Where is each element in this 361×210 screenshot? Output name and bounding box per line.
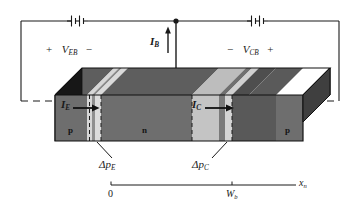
ic-subscript: C	[196, 104, 201, 112]
collector-region-letter: p	[285, 126, 290, 135]
base-current-arrow	[165, 27, 171, 54]
delta-pc-symbol: Δp	[192, 158, 204, 170]
veb-subscript: EB	[68, 49, 77, 57]
figure-canvas: + VEB − − VCB + IB IE IC p n p ΔpE ΔpC 0…	[0, 0, 361, 210]
delta-p-emitter-label: ΔpE	[99, 159, 115, 170]
vcb-plus-sign: +	[267, 43, 273, 55]
collector-current-label: IC	[192, 99, 201, 110]
delta-pe-symbol: Δp	[99, 158, 111, 170]
ib-subscript: B	[154, 41, 159, 49]
base-node-top-dot	[173, 18, 178, 23]
emitter-base-voltage-label: + VEB −	[46, 44, 92, 55]
axis-variable-label: xn	[299, 178, 307, 188]
delta-p-collector-label: ΔpC	[192, 159, 209, 170]
delta-pe-subscript: E	[111, 164, 115, 172]
battery-emitter-base	[67, 16, 88, 27]
xn-subscript: n	[303, 182, 306, 189]
delta-pc-subscript: C	[204, 164, 209, 172]
front-face-collector-depletion-c	[225, 95, 232, 141]
x-axis	[111, 182, 296, 186]
battery-collector-base	[247, 16, 268, 27]
front-face-emitter-depletion-b	[92, 95, 95, 141]
collector-base-voltage-label: − VCB +	[227, 44, 273, 55]
vcb-minus-sign: −	[227, 43, 233, 55]
transistor-diagram-svg	[0, 0, 361, 210]
front-face-emitter-depletion-c	[95, 95, 101, 141]
veb-minus-sign: −	[86, 43, 92, 55]
front-face-collector-depletion-b	[219, 95, 225, 141]
emitter-region-letter: p	[68, 126, 73, 135]
vcb-subscript: CB	[249, 49, 258, 57]
wb-subscript: b	[234, 193, 237, 200]
ie-subscript: E	[65, 104, 70, 112]
veb-plus-sign: +	[46, 43, 52, 55]
front-face-collector-p	[232, 95, 276, 141]
base-region-letter: n	[142, 126, 147, 135]
leader-delta-p-emitter	[97, 142, 112, 158]
leader-delta-p-collector	[212, 142, 227, 158]
axis-origin-label: 0	[108, 189, 113, 199]
annotation-leader-lines	[97, 142, 227, 158]
emitter-current-label: IE	[61, 99, 70, 110]
axis-base-width-label: Wb	[226, 189, 238, 199]
base-current-label: IB	[150, 36, 159, 47]
